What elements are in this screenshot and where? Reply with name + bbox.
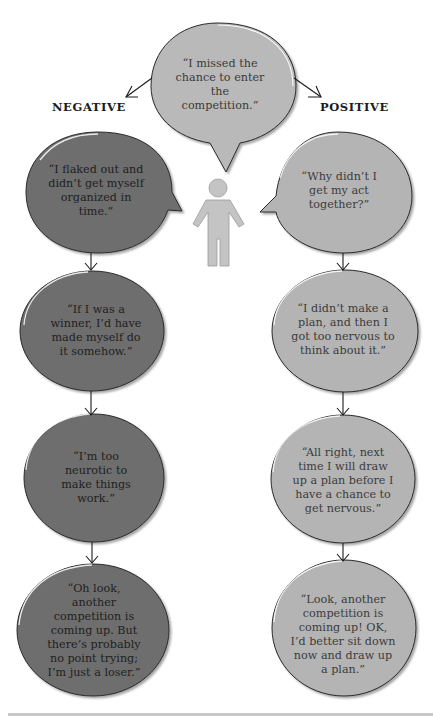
negative-thought-4: “Oh look, another competition is coming …: [44, 586, 144, 676]
negative-thought-2: “If I was a winner, I’d have made myself…: [48, 300, 144, 362]
negative-label: NEGATIVE: [52, 100, 126, 114]
arrow-positive-2-3: [337, 392, 349, 415]
arrow-negative-3-4: [86, 542, 98, 563]
root-thought-text: “I missed the chance to enter the compet…: [172, 62, 268, 108]
positive-thought-2: “I didn’t make a plan, and then I got to…: [290, 300, 396, 360]
arrow-to-positive: [294, 78, 321, 97]
negative-thought-1: “I flaked out and didn’t get myself orga…: [46, 160, 146, 222]
person-figure-icon: [193, 179, 244, 266]
positive-thought-1: “Why didn’t I get my act together?”: [300, 168, 378, 214]
positive-label: POSITIVE: [320, 100, 389, 114]
thought-pattern-diagram: NEGATIVE POSITIVE “I missed the chance t…: [0, 0, 433, 716]
arrow-negative-2-3: [85, 391, 97, 415]
negative-thought-3: “I’m too neurotic to make things work.”: [48, 455, 144, 501]
positive-thought-3: “All right, next time I will draw up a p…: [290, 444, 396, 518]
arrow-positive-3-4: [337, 543, 349, 561]
arrow-to-negative: [126, 78, 152, 97]
arrow-negative-1-2: [85, 253, 97, 270]
arrow-positive-1-2: [337, 253, 349, 270]
positive-thought-4: “Look, another competition is coming up!…: [290, 592, 396, 678]
